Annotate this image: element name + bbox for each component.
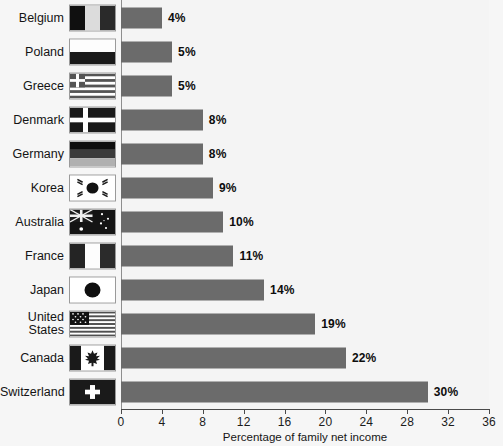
bar: [121, 314, 315, 335]
bar-value-label: 5%: [178, 45, 196, 59]
bar-value-label: 22%: [352, 351, 377, 365]
country-label: Korea: [0, 182, 64, 195]
bar: [121, 212, 223, 233]
flag-denmark-icon: [69, 107, 116, 134]
country-label: Belgium: [0, 12, 64, 25]
flag-poland-icon: [69, 39, 116, 66]
x-axis-tick: [285, 409, 286, 414]
x-axis-tick: [407, 409, 408, 414]
country-label: United States: [0, 311, 64, 337]
flag-japan-icon: [69, 277, 116, 304]
x-axis-line: [121, 409, 490, 410]
country-label: France: [0, 250, 64, 263]
bar: [121, 178, 213, 199]
table-row: Belgium4%: [0, 1, 503, 35]
bar-value-label: 4%: [168, 11, 186, 25]
flag-australia-icon: [69, 209, 116, 236]
x-axis-tick: [121, 409, 122, 414]
bar: [121, 76, 172, 97]
bar-chart: Belgium4%Poland5%Greece5%Denmark8%German…: [0, 0, 503, 446]
bar-value-label: 8%: [209, 147, 227, 161]
x-axis-tick: [366, 409, 367, 414]
bar: [121, 246, 233, 267]
bar: [121, 42, 172, 63]
bar: [121, 382, 428, 403]
x-axis-tick: [203, 409, 204, 414]
x-axis-title: Percentage of family net income: [121, 431, 489, 443]
bar-value-label: 8%: [209, 113, 227, 127]
country-label: Germany: [0, 148, 64, 161]
country-label: Poland: [0, 46, 64, 59]
x-axis-tick: [244, 409, 245, 414]
bar-value-label: 19%: [321, 317, 346, 331]
flag-france-icon: [69, 243, 116, 270]
country-label: Australia: [0, 216, 64, 229]
flag-canada-icon: [69, 345, 116, 372]
table-row: Japan14%: [0, 273, 503, 307]
table-row: Canada22%: [0, 341, 503, 375]
x-axis-tick-label: 36: [482, 415, 496, 429]
bar-value-label: 5%: [178, 79, 196, 93]
flag-greece-icon: [69, 73, 116, 100]
table-row: Korea9%: [0, 171, 503, 205]
country-label: Canada: [0, 352, 64, 365]
bar-value-label: 14%: [270, 283, 295, 297]
table-row: France11%: [0, 239, 503, 273]
country-label: Japan: [0, 284, 64, 297]
bar: [121, 8, 162, 29]
country-label: Switzerland: [0, 386, 64, 399]
x-axis-tick: [489, 409, 490, 414]
flag-germany-icon: [69, 141, 116, 168]
bar: [121, 144, 203, 165]
table-row: Germany8%: [0, 137, 503, 171]
flag-switzerland-icon: [69, 379, 116, 406]
country-label: Greece: [0, 80, 64, 93]
x-axis-tick-label: 16: [278, 415, 292, 429]
table-row: Denmark8%: [0, 103, 503, 137]
x-axis-tick: [325, 409, 326, 414]
x-axis-tick: [162, 409, 163, 414]
x-axis-tick-label: 24: [359, 415, 373, 429]
x-axis-tick-label: 4: [158, 415, 165, 429]
x-axis-tick-label: 12: [237, 415, 251, 429]
x-axis-tick-label: 28: [400, 415, 414, 429]
x-axis-tick-label: 32: [441, 415, 455, 429]
table-row: Poland5%: [0, 35, 503, 69]
table-row: Switzerland30%: [0, 375, 503, 409]
table-row: Australia10%: [0, 205, 503, 239]
flag-united-states-icon: [69, 311, 116, 338]
flag-korea-icon: [69, 175, 116, 202]
flag-belgium-icon: [69, 5, 116, 32]
country-label: Denmark: [0, 114, 64, 127]
x-axis-tick-label: 8: [199, 415, 206, 429]
bar-value-label: 11%: [239, 249, 263, 263]
bar-value-label: 10%: [229, 215, 254, 229]
x-axis-tick: [448, 409, 449, 414]
x-axis-tick-label: 20: [319, 415, 333, 429]
table-row: Greece5%: [0, 69, 503, 103]
bar: [121, 280, 264, 301]
bar-value-label: 9%: [219, 181, 237, 195]
bar: [121, 110, 203, 131]
bar: [121, 348, 346, 369]
x-axis-tick-label: 0: [118, 415, 125, 429]
table-row: United States19%: [0, 307, 503, 341]
bar-value-label: 30%: [434, 385, 459, 399]
